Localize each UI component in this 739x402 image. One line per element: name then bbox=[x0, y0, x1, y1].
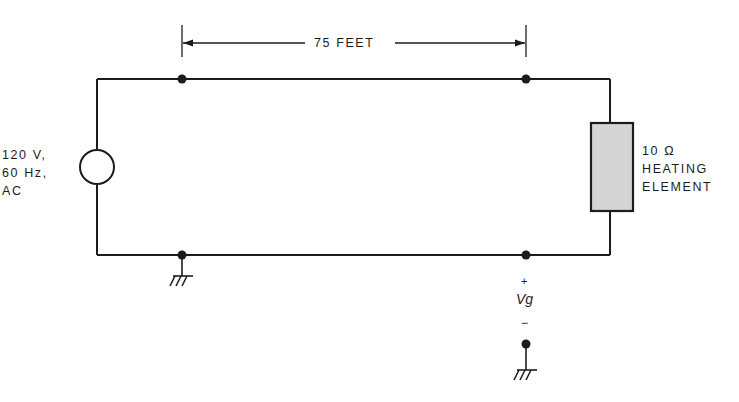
source-voltage: 120 V, bbox=[2, 146, 48, 164]
circuit-schematic bbox=[0, 0, 739, 402]
load-label: 10 Ω HEATING ELEMENT bbox=[642, 142, 712, 196]
dimension-label: 75 FEET bbox=[308, 34, 381, 52]
junction-dot-bottom-right bbox=[522, 251, 531, 260]
load-name-line2: ELEMENT bbox=[642, 178, 712, 196]
arrow-right-icon bbox=[515, 40, 525, 47]
load-name-line1: HEATING bbox=[642, 160, 712, 178]
source-type: AC bbox=[2, 182, 48, 200]
ac-source-icon bbox=[80, 150, 114, 184]
heating-element-icon bbox=[591, 123, 633, 211]
source-label: 120 V, 60 Hz, AC bbox=[2, 146, 48, 200]
vg-label: Vg bbox=[516, 290, 533, 308]
source-frequency: 60 Hz, bbox=[2, 164, 48, 182]
ground-icon-right bbox=[514, 344, 537, 380]
load-resistance: 10 Ω bbox=[642, 142, 712, 160]
arrow-left-icon bbox=[183, 40, 193, 47]
junction-dot-top-left bbox=[178, 75, 187, 84]
vg-minus-sign: − bbox=[521, 314, 530, 332]
ground-icon-left bbox=[170, 255, 193, 286]
junction-dot-top-right bbox=[522, 75, 531, 84]
vg-plus-sign: + bbox=[521, 272, 529, 290]
